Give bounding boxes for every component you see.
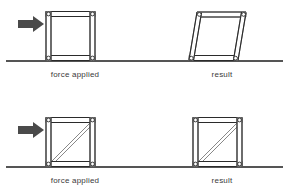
force-arrow-top [18,16,44,32]
member-top [193,118,242,123]
caption-bottom-right: result [212,176,233,185]
member-top [46,12,95,17]
member-left [193,118,198,167]
pin-joint-icon [91,162,95,166]
pin-joint-icon [91,118,95,122]
member-left [46,12,51,61]
member-right [234,12,247,61]
member-bottom [46,162,95,167]
pin-joint-icon [189,56,193,60]
pin-joint-icon [238,118,242,122]
member-top [197,12,246,17]
pin-joint-icon [194,162,198,166]
panel-bottom-right-frame [193,118,242,167]
caption-top-right: result [212,70,233,79]
member-right [237,118,242,167]
member-right [90,118,95,167]
pin-joint-icon [194,118,198,122]
caption-top-left: force applied [51,70,99,79]
pin-joint-icon [91,12,95,16]
panel-top-left-frame [46,12,95,61]
member-top [46,118,95,123]
pin-joint-icon [197,13,201,17]
member-bottom [46,56,95,61]
diagonal-brace-icon [197,121,241,165]
pin-joint-icon [91,56,95,60]
pin-joint-icon [47,12,51,16]
pin-joint-icon [47,118,51,122]
force-arrow-bottom [18,122,44,138]
member-left [189,12,202,61]
panel-top-right-frame [189,12,246,61]
diagonal-brace-icon [50,121,94,165]
pin-joint-icon [238,162,242,166]
member-bottom [193,162,242,167]
member-left [46,118,51,167]
pin-joint-icon [47,56,51,60]
figure-canvas [0,0,289,195]
structural-bracing-figure: force applied result force applied resul… [0,0,289,195]
pin-joint-icon [234,56,238,60]
member-bottom [189,56,238,61]
panel-bottom-left-frame [46,118,95,167]
pin-joint-icon [242,13,246,17]
caption-bottom-left: force applied [51,176,99,185]
pin-joint-icon [47,162,51,166]
member-right [90,12,95,61]
